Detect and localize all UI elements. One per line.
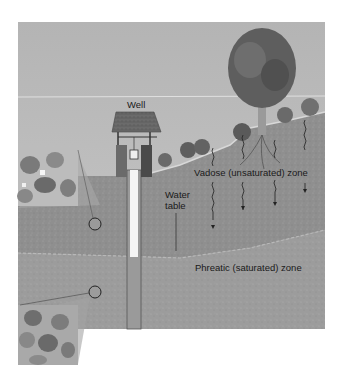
- unsaturated-magnifier-circle: [89, 218, 101, 230]
- well-roof: [112, 112, 161, 132]
- diagram-canvas: Well Vadose (unsaturated) zone Water tab…: [0, 0, 344, 381]
- well-shaft-air: [130, 170, 138, 257]
- phreatic-zone-label: Phreatic (saturated) zone: [195, 262, 302, 273]
- bucket-icon: [130, 150, 138, 159]
- well-label: Well: [127, 99, 145, 110]
- vadose-zone-label: Vadose (unsaturated) zone: [194, 167, 308, 178]
- saturated-pore-inset: [18, 297, 90, 365]
- water-table-label-line2: table: [165, 200, 186, 211]
- groundwater-diagram: Well Vadose (unsaturated) zone Water tab…: [0, 0, 344, 381]
- water-table-label-line1: Water: [165, 189, 190, 200]
- saturated-magnifier-circle: [89, 286, 101, 298]
